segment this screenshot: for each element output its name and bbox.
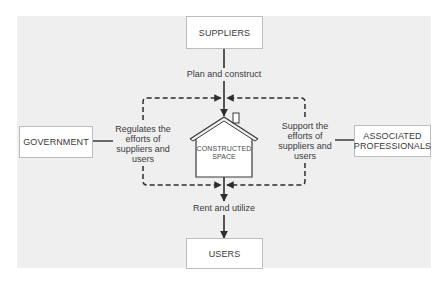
center-label-line1: CONSTRUCTED: [196, 145, 252, 153]
support-line1: Support the: [275, 121, 335, 131]
constructed-space-label: CONSTRUCTED SPACE: [196, 145, 252, 161]
associated-label-line2: PROFESSIONALS: [354, 141, 431, 151]
government-label: GOVERNMENT: [23, 137, 89, 147]
edge-label-rent-utilize: Rent and utilize: [180, 203, 268, 213]
regulates-line1: Regulates the: [113, 124, 173, 134]
users-label: USERS: [209, 249, 241, 259]
associated-professionals-node: ASSOCIATED PROFESSIONALS: [354, 125, 431, 157]
regulates-line2: efforts of: [113, 134, 173, 144]
center-label-line2: SPACE: [196, 153, 252, 161]
users-node: USERS: [186, 238, 263, 269]
suppliers-node: SUPPLIERS: [186, 16, 263, 49]
support-line4: users: [275, 151, 335, 161]
edge-label-plan-construct: Plan and construct: [180, 69, 268, 79]
support-line3: suppliers and: [275, 141, 335, 151]
regulates-line3: suppliers and: [113, 144, 173, 154]
edge-label-support: Support the efforts of suppliers and use…: [275, 119, 335, 163]
associated-label-line1: ASSOCIATED: [363, 131, 421, 141]
suppliers-label: SUPPLIERS: [199, 28, 250, 38]
regulates-line4: users: [113, 154, 173, 164]
edge-label-regulates: Regulates the efforts of suppliers and u…: [113, 122, 173, 166]
support-line2: efforts of: [275, 131, 335, 141]
government-node: GOVERNMENT: [19, 126, 93, 158]
